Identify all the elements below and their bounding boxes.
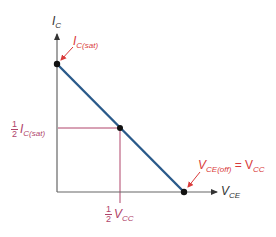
cutoff-label: VCE(off) = VCC [198, 159, 265, 174]
load-line-diagram [0, 0, 276, 237]
half-isat-label: 12 IC(sat) [11, 120, 45, 139]
saturation-point [54, 61, 60, 67]
half-fraction: 12 [105, 205, 112, 224]
half-fraction: 12 [11, 120, 18, 139]
saturation-annotation-arrow [61, 47, 73, 60]
x-axis-label: VCE [221, 185, 240, 200]
half-vcc-label: 12 VCC [105, 205, 134, 224]
midpoint [117, 125, 123, 131]
cutoff-annotation-arrow [188, 172, 200, 187]
y-axis-label: IC [52, 15, 61, 30]
cutoff-point [181, 189, 187, 195]
saturation-label: IC(sat) [73, 35, 98, 50]
